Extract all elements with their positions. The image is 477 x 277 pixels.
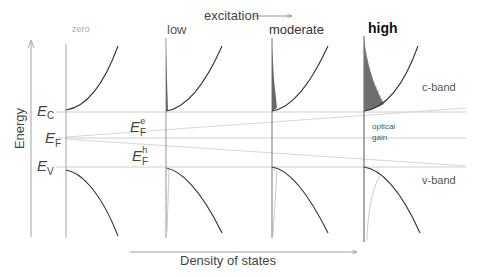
ev-label: EV — [37, 157, 54, 174]
cband-curve-zero — [66, 46, 118, 110]
vband-curve-moderate — [272, 167, 328, 233]
efh-quasi-fermi-line — [66, 139, 466, 166]
diagram-graphics — [0, 0, 477, 277]
electron-fill-low — [166, 50, 168, 111]
band-diagram: Energy Density of states excitation zero… — [0, 0, 477, 277]
panel-label-low: low — [167, 22, 187, 37]
efe-label: EFe — [130, 118, 151, 135]
ef-label: EF — [45, 129, 61, 146]
optical-gain-label-line1: optical — [372, 122, 395, 131]
hole-dist-high — [367, 176, 380, 240]
efh-label: EFh — [132, 147, 153, 164]
vband-curve-low — [166, 168, 222, 233]
hole-dist-moderate — [272, 168, 277, 235]
ec-label: EC — [37, 102, 54, 119]
c-band-label: c-band — [422, 81, 456, 93]
panel-label-zero: zero — [72, 24, 90, 34]
excitation-label: excitation — [204, 8, 259, 23]
cband-curve-low — [166, 46, 222, 111]
v-band-label: v-band — [422, 174, 456, 186]
vband-curve-high — [364, 167, 420, 233]
optical-gain-label-line2: gain — [372, 133, 387, 142]
energy-axis-label: Energy — [12, 104, 27, 154]
panel-label-moderate: moderate — [269, 22, 324, 37]
dos-axis-label: Density of states — [180, 253, 276, 268]
vband-curve-zero — [66, 170, 118, 236]
electron-fill-moderate — [272, 45, 277, 111]
cband-curve-moderate — [272, 46, 328, 111]
panel-label-high: high — [368, 20, 398, 36]
